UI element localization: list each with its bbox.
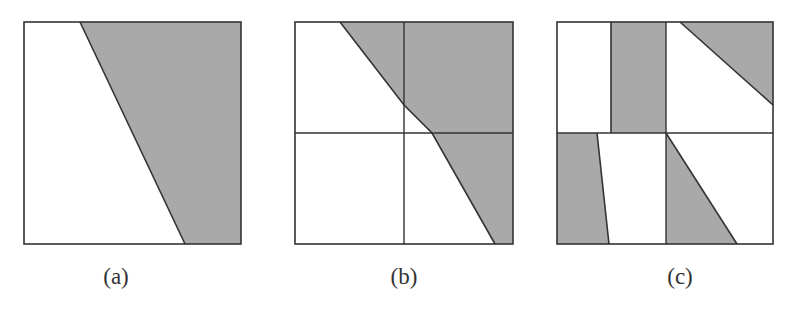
panel-c-diagram	[557, 22, 773, 244]
shaded-region	[611, 22, 666, 133]
panel-b-diagram	[295, 22, 513, 244]
panel-c-caption: (c)	[667, 264, 693, 290]
panel-b-caption: (b)	[391, 264, 418, 290]
panel-a-caption: (a)	[103, 264, 129, 290]
panel-a-diagram	[24, 22, 241, 244]
